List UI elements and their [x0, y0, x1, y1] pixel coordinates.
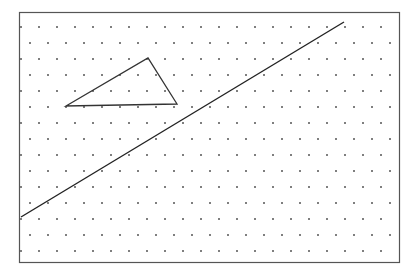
grid-dot	[344, 154, 346, 156]
grid-dot	[353, 170, 355, 172]
grid-dot	[137, 234, 139, 236]
grid-dot	[353, 42, 355, 44]
grid-dot	[218, 90, 220, 92]
grid-dot	[362, 122, 364, 124]
grid-dot	[191, 42, 193, 44]
grid-dot	[38, 58, 40, 60]
grid-dot	[245, 202, 247, 204]
grid-dot	[254, 122, 256, 124]
grid-dot	[308, 90, 310, 92]
grid-dot	[155, 42, 157, 44]
grid-dot	[200, 90, 202, 92]
grid-dot	[173, 202, 175, 204]
grid-dot	[92, 58, 94, 60]
grid-dot	[38, 154, 40, 156]
grid-dot	[74, 122, 76, 124]
grid-dot	[290, 218, 292, 220]
grid-dot	[101, 106, 103, 108]
grid-dot	[389, 138, 391, 140]
grid-dot	[209, 170, 211, 172]
grid-dot	[281, 170, 283, 172]
grid-dot	[218, 250, 220, 252]
grid-dot	[146, 218, 148, 220]
grid-dot	[20, 26, 22, 28]
grid-dot	[74, 154, 76, 156]
grid-dot	[326, 250, 328, 252]
grid-dot	[362, 154, 364, 156]
grid-dot	[146, 26, 148, 28]
grid-dot	[272, 218, 274, 220]
grid-dot	[245, 138, 247, 140]
grid-dot	[173, 170, 175, 172]
grid-dot	[281, 42, 283, 44]
grid-dot	[56, 154, 58, 156]
grid-dot	[344, 58, 346, 60]
grid-dot	[128, 122, 130, 124]
grid-dot	[20, 218, 22, 220]
grid-dot	[146, 122, 148, 124]
grid-dot	[146, 186, 148, 188]
grid-dot	[353, 74, 355, 76]
grid-dot	[56, 58, 58, 60]
grid-dot	[101, 42, 103, 44]
grid-dot	[371, 202, 373, 204]
grid-dot	[191, 234, 193, 236]
grid-dot	[308, 122, 310, 124]
grid-dot	[92, 154, 94, 156]
grid-dot	[308, 26, 310, 28]
grid-dot	[209, 202, 211, 204]
grid-dot	[146, 154, 148, 156]
grid-dot	[245, 42, 247, 44]
grid-dot	[110, 26, 112, 28]
grid-dot	[47, 42, 49, 44]
grid-dot	[218, 154, 220, 156]
grid-dot	[29, 202, 31, 204]
grid-dot	[164, 26, 166, 28]
grid-dot	[299, 106, 301, 108]
grid-dot	[146, 250, 148, 252]
grid-dot	[128, 250, 130, 252]
grid-dot	[20, 186, 22, 188]
grid-dot	[353, 138, 355, 140]
grid-dot	[326, 58, 328, 60]
grid-dot	[209, 42, 211, 44]
grid-dot	[137, 106, 139, 108]
grid-dot	[227, 42, 229, 44]
grid-dot	[74, 26, 76, 28]
grid-dot	[182, 90, 184, 92]
grid-dot	[317, 138, 319, 140]
grid-dot	[29, 74, 31, 76]
grid-dot	[137, 202, 139, 204]
grid-dot	[47, 170, 49, 172]
grid-dot	[272, 154, 274, 156]
grid-dot	[344, 250, 346, 252]
grid-dot	[227, 170, 229, 172]
grid-dot	[110, 218, 112, 220]
grid-dot	[353, 202, 355, 204]
grid-dot	[56, 90, 58, 92]
grid-dot	[209, 74, 211, 76]
grid-dot	[74, 218, 76, 220]
grid-dot	[128, 58, 130, 60]
grid-dot	[182, 154, 184, 156]
grid-dot	[290, 186, 292, 188]
grid-dot	[29, 234, 31, 236]
grid-dot	[83, 234, 85, 236]
grid-dot	[182, 186, 184, 188]
grid-dot	[200, 154, 202, 156]
grid-dot	[272, 58, 274, 60]
grid-dot	[101, 138, 103, 140]
grid-dot	[299, 138, 301, 140]
grid-dot	[119, 234, 121, 236]
grid-dot	[119, 170, 121, 172]
grid-dot	[119, 42, 121, 44]
grid-dot	[38, 186, 40, 188]
grid-dot	[101, 170, 103, 172]
grid-dot	[110, 154, 112, 156]
grid-dot	[137, 42, 139, 44]
grid-dot	[326, 154, 328, 156]
grid-dot	[263, 106, 265, 108]
grid-dot	[29, 106, 31, 108]
grid-dot	[137, 138, 139, 140]
grid-dot	[380, 90, 382, 92]
